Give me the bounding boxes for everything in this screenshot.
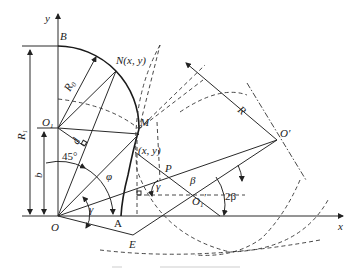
label-A: A — [114, 217, 122, 229]
label-b: b — [32, 172, 44, 178]
line-O1-R0 — [58, 57, 96, 128]
line-O1-M — [58, 128, 139, 134]
right-angle-mark-2 — [137, 191, 141, 195]
label-R0: R0 — [61, 78, 79, 95]
label-beta: β — [189, 174, 196, 186]
label-gamma-O: γ — [89, 203, 94, 215]
label-d: d — [69, 135, 82, 146]
line-O-M — [58, 134, 139, 216]
label-B: B — [60, 30, 67, 42]
label-O: O — [51, 221, 59, 233]
label-phi: φ — [106, 170, 112, 182]
label-x-axis: x — [337, 220, 343, 232]
label-45: 45° — [62, 150, 77, 162]
radius-R — [186, 63, 277, 140]
label-gamma-P: γ — [156, 180, 161, 192]
dashed-arc-right — [195, 180, 300, 255]
line-N-O — [58, 71, 116, 216]
dashdot-line-Oprime — [247, 83, 306, 180]
diagram-figure: y x B N(x, y) R0 O1 M (x, y) R1 b 45° φ … — [0, 0, 360, 273]
label-y-axis: y — [44, 12, 50, 24]
label-2beta: 2β — [225, 190, 237, 202]
label-E: E — [128, 238, 136, 250]
label-xy: (x, y) — [138, 144, 161, 157]
label-M: M — [139, 116, 150, 128]
label-O1: O1 — [42, 116, 53, 130]
label-N: N(x, y) — [115, 54, 146, 67]
dashed-circle-2 — [180, 92, 247, 112]
caption-mark-1 — [112, 266, 122, 268]
arc-2beta — [216, 177, 225, 215]
line-O1-N — [58, 71, 116, 128]
line-xy-P — [135, 152, 220, 216]
label-Oprime: O′ — [280, 127, 291, 139]
geometry-canvas: y x B N(x, y) R0 O1 M (x, y) R1 b 45° φ … — [0, 0, 360, 273]
label-R1: R1 — [15, 130, 29, 141]
arc-beta — [238, 165, 242, 181]
dashed-circle-1 — [136, 45, 328, 252]
figure-caption-faint — [0, 262, 360, 273]
label-O1prime: O1′ — [192, 191, 206, 209]
caption-mark-2 — [160, 266, 240, 268]
label-P: P — [164, 162, 172, 174]
